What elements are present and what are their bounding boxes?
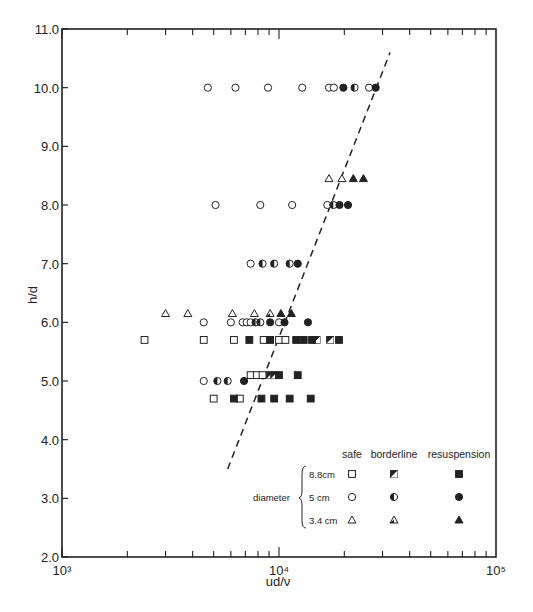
square-marker bbox=[309, 337, 316, 344]
triangle-marker bbox=[250, 310, 258, 317]
y-tick-label: 5.0 bbox=[41, 374, 59, 389]
circle-marker bbox=[240, 377, 247, 384]
circle-marker bbox=[257, 201, 264, 208]
triangle-marker bbox=[277, 310, 285, 317]
triangle-marker bbox=[228, 310, 236, 317]
legend-brace bbox=[299, 466, 306, 528]
square-marker bbox=[141, 337, 148, 344]
circle-marker bbox=[344, 201, 351, 208]
circle-marker bbox=[330, 84, 337, 91]
square-marker bbox=[307, 395, 314, 402]
square-marker bbox=[231, 395, 238, 402]
y-axis-label: h/d bbox=[25, 286, 40, 304]
square-marker bbox=[336, 337, 343, 344]
legend-row-label: 5 cm bbox=[309, 492, 330, 503]
scatter-chart: 2.03.04.05.06.07.08.09.010.011.0 10³10⁴1… bbox=[0, 0, 533, 612]
circle-marker bbox=[304, 319, 311, 326]
series-3.4cm-resuspension bbox=[277, 175, 368, 317]
circle-marker bbox=[299, 84, 306, 91]
square-marker bbox=[276, 372, 283, 379]
circle-marker bbox=[212, 201, 219, 208]
x-tick-label: 10⁵ bbox=[486, 563, 506, 578]
legend-circle-open bbox=[348, 493, 355, 500]
square-marker bbox=[260, 337, 267, 344]
circle-marker bbox=[200, 319, 207, 326]
square-marker bbox=[276, 337, 283, 344]
y-tick-label: 3.0 bbox=[41, 491, 59, 506]
y-tick-label: 6.0 bbox=[41, 315, 59, 330]
circle-marker bbox=[289, 201, 296, 208]
legend-column-resuspension: resuspension bbox=[428, 448, 491, 460]
series-3.4cm-safe bbox=[162, 175, 346, 317]
circle-marker bbox=[247, 260, 254, 267]
data-points bbox=[141, 84, 379, 402]
square-marker bbox=[259, 372, 266, 379]
y-tick-label: 11.0 bbox=[35, 22, 59, 37]
circle-marker bbox=[200, 377, 207, 384]
x-axis-label: ud/ν bbox=[266, 574, 291, 589]
legend-triangle-filled bbox=[455, 516, 463, 523]
triangle-marker bbox=[349, 175, 357, 182]
triangle-marker bbox=[359, 175, 367, 182]
square-marker bbox=[282, 337, 289, 344]
y-tick-label: 9.0 bbox=[41, 139, 59, 154]
legend-column-safe: safe bbox=[342, 448, 362, 460]
circle-marker bbox=[340, 84, 347, 91]
legend-group-label: diameter bbox=[253, 492, 290, 503]
circle-marker bbox=[281, 319, 288, 326]
square-marker bbox=[258, 395, 265, 402]
legend-square-filled bbox=[456, 471, 463, 478]
circle-marker bbox=[267, 319, 274, 326]
plot-border bbox=[62, 29, 496, 557]
series-3.4cm-borderline bbox=[266, 310, 274, 317]
x-tick-label: 10³ bbox=[53, 563, 72, 578]
square-marker bbox=[293, 337, 300, 344]
square-marker bbox=[286, 395, 293, 402]
plot-frame bbox=[62, 29, 496, 557]
triangle-marker bbox=[325, 175, 333, 182]
series-8.8cm-resuspension bbox=[231, 337, 343, 402]
circle-marker bbox=[232, 84, 239, 91]
legend-column-borderline: borderline bbox=[371, 448, 418, 460]
circle-marker bbox=[372, 84, 379, 91]
legend-row-label: 3.4 cm bbox=[309, 515, 338, 526]
square-marker bbox=[210, 395, 217, 402]
circle-marker bbox=[204, 84, 211, 91]
triangle-marker bbox=[162, 310, 170, 317]
y-tick-label: 8.0 bbox=[41, 198, 59, 213]
square-marker bbox=[267, 337, 274, 344]
legend-square-open bbox=[349, 471, 356, 478]
y-tick-label: 4.0 bbox=[41, 433, 59, 448]
square-marker bbox=[200, 337, 207, 344]
circle-marker bbox=[264, 84, 271, 91]
square-marker bbox=[246, 337, 253, 344]
y-tick-label: 7.0 bbox=[41, 257, 59, 272]
legend-circle-filled bbox=[455, 493, 462, 500]
square-marker bbox=[231, 337, 238, 344]
square-marker bbox=[271, 395, 278, 402]
circle-marker bbox=[336, 201, 343, 208]
circle-marker bbox=[227, 319, 234, 326]
circle-marker bbox=[365, 84, 372, 91]
circle-marker bbox=[294, 260, 301, 267]
legend: safeborderlineresuspension8.8cm5 cm3.4 c… bbox=[253, 448, 490, 528]
y-tick-label: 10.0 bbox=[34, 81, 59, 96]
triangle-marker bbox=[338, 175, 346, 182]
legend-row-label: 8.8cm bbox=[309, 469, 335, 480]
series-8.8cm-safe bbox=[141, 337, 289, 402]
triangle-marker bbox=[184, 310, 192, 317]
square-marker bbox=[300, 337, 307, 344]
square-marker bbox=[294, 372, 301, 379]
triangle-marker bbox=[287, 310, 295, 317]
legend-triangle-open bbox=[348, 516, 356, 523]
